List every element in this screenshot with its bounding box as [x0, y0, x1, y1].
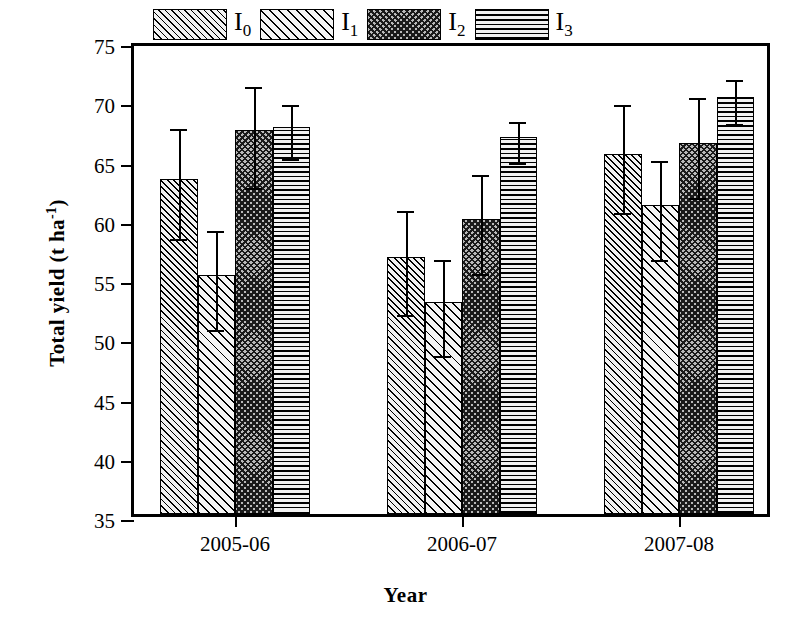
y-axis-tick: 40	[121, 461, 134, 463]
y-axis-tick-label: 70	[94, 94, 115, 119]
error-bar-cap-lower	[282, 159, 299, 161]
error-bar-cap-upper	[397, 211, 414, 213]
legend-swatch-I3	[475, 9, 549, 40]
bar-I3-2006-07	[500, 137, 538, 514]
error-bar-cap-upper	[614, 105, 631, 107]
error-bar-cap-upper	[726, 80, 743, 82]
error-bar-cap-lower	[472, 274, 489, 276]
error-bar-cap-upper	[651, 161, 668, 163]
error-bar-I0-2007-08	[623, 105, 625, 213]
y-axis-tick: 55	[121, 283, 134, 285]
y-axis-tick: 65	[121, 165, 134, 167]
y-axis-tick-label: 45	[94, 391, 115, 416]
bar-I3-2007-08	[717, 97, 755, 514]
error-bar-I3-2006-07	[518, 122, 520, 163]
error-bar-I0-2006-07	[406, 211, 408, 315]
y-axis-tick-label: 60	[94, 213, 115, 238]
legend-label-I3: I3	[556, 9, 573, 39]
x-axis-tick-label: 2007-08	[599, 532, 759, 557]
legend-label-I0: I0	[234, 9, 251, 39]
error-bar-cap-upper	[282, 105, 299, 107]
error-bar-cap-lower	[397, 315, 414, 317]
error-bar-cap-lower	[614, 213, 631, 215]
y-axis-tick-label: 65	[94, 154, 115, 179]
y-axis-title-superscript: -1	[44, 207, 59, 219]
error-bar-cap-lower	[434, 356, 451, 358]
legend-item-I1: I1	[260, 9, 367, 40]
legend-label-I2: I2	[448, 9, 465, 39]
y-axis-tick: 45	[121, 402, 134, 404]
y-axis-tick: 70	[121, 105, 134, 107]
error-bar-I1-2006-07	[443, 260, 445, 356]
y-axis-tick: 35	[121, 520, 134, 522]
y-axis-title-tail: )	[45, 199, 69, 206]
error-bar-cap-lower	[689, 198, 706, 200]
error-bar-cap-upper	[472, 175, 489, 177]
x-axis-title: Year	[0, 583, 811, 608]
chart-figure: Total yield (t ha-1) Year 35404550556065…	[0, 0, 811, 633]
y-axis-tick: 60	[121, 224, 134, 226]
chart-legend: I0I1I2I3	[153, 9, 582, 40]
error-bar-cap-upper	[689, 98, 706, 100]
x-axis-tick	[462, 514, 464, 527]
x-axis-tick-label: 2006-07	[382, 532, 542, 557]
legend-item-I3: I3	[475, 9, 582, 40]
error-bar-cap-lower	[207, 330, 224, 332]
y-axis-tick-label: 55	[94, 272, 115, 297]
error-bar-I1-2005-06	[216, 231, 218, 331]
y-axis-tick-label: 35	[94, 509, 115, 534]
y-axis-tick: 50	[121, 342, 134, 344]
error-bar-cap-upper	[245, 87, 262, 89]
legend-swatch-I1	[260, 9, 334, 40]
legend-label-I1: I1	[341, 9, 358, 39]
legend-swatch-I0	[153, 9, 227, 40]
plot-area: 3540455055606570752005-062006-072007-08	[131, 43, 770, 517]
legend-item-I2: I2	[367, 9, 474, 40]
error-bar-cap-lower	[170, 239, 187, 241]
y-axis-tick-label: 75	[94, 35, 115, 60]
y-axis-title: Total yield (t ha-1)	[44, 83, 70, 483]
x-axis-tick-label: 2005-06	[155, 532, 315, 557]
error-bar-I2-2007-08	[698, 98, 700, 198]
y-axis-title-text: Total yield (t ha	[45, 219, 69, 367]
error-bar-cap-lower	[651, 260, 668, 262]
error-bar-cap-lower	[245, 188, 262, 190]
y-axis-tick-label: 40	[94, 450, 115, 475]
error-bar-I3-2005-06	[291, 105, 293, 158]
error-bar-I0-2005-06	[179, 129, 181, 239]
legend-item-I0: I0	[153, 9, 260, 40]
error-bar-I1-2007-08	[660, 161, 662, 261]
x-axis-tick	[235, 514, 237, 527]
bar-I3-2005-06	[273, 127, 311, 514]
legend-swatch-I2	[367, 9, 441, 40]
error-bar-cap-lower	[726, 124, 743, 126]
y-axis-tick-label: 50	[94, 331, 115, 356]
error-bar-I2-2005-06	[254, 87, 256, 188]
error-bar-cap-lower	[509, 163, 526, 165]
error-bar-I2-2006-07	[481, 175, 483, 273]
error-bar-cap-upper	[207, 231, 224, 233]
x-axis-tick	[679, 514, 681, 527]
error-bar-cap-upper	[434, 260, 451, 262]
error-bar-cap-upper	[170, 129, 187, 131]
y-axis-tick: 75	[121, 46, 134, 48]
error-bar-cap-upper	[509, 122, 526, 124]
error-bar-I3-2007-08	[735, 80, 737, 124]
